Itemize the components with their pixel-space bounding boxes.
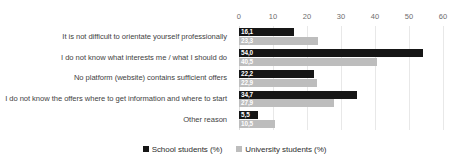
bar-university-students[interactable]: 22,9 bbox=[239, 79, 317, 87]
legend-swatch-icon bbox=[143, 146, 149, 152]
plot-area: 16,123,354,040,522,222,934,727,95,510,5 bbox=[239, 26, 443, 130]
bar-value-label: 16,1 bbox=[241, 28, 253, 36]
bar-university-students[interactable]: 23,3 bbox=[239, 37, 318, 45]
bar-university-students[interactable]: 10,5 bbox=[239, 120, 275, 128]
x-axis-tick: 10 bbox=[269, 11, 278, 22]
bar-group: 34,727,9 bbox=[239, 88, 443, 109]
bar-university-students[interactable]: 40,5 bbox=[239, 58, 377, 66]
chart-legend: School students (%)University students (… bbox=[0, 142, 469, 156]
x-axis-tick: 20 bbox=[303, 11, 312, 22]
legend-swatch-icon bbox=[236, 146, 242, 152]
bar-school-students[interactable]: 16,1 bbox=[239, 28, 294, 36]
x-axis-tick: 30 bbox=[337, 11, 346, 22]
bar-group: 16,123,3 bbox=[239, 26, 443, 47]
legend-label: School students (%) bbox=[152, 145, 223, 154]
bar-school-students[interactable]: 5,5 bbox=[239, 111, 258, 119]
bar-value-label: 22,2 bbox=[241, 70, 253, 78]
bar-rows: 16,123,354,040,522,222,934,727,95,510,5 bbox=[239, 26, 443, 130]
bar-university-students[interactable]: 27,9 bbox=[239, 99, 334, 107]
category-label: I do not know the offers where to get in… bbox=[0, 88, 227, 109]
legend-label: University students (%) bbox=[245, 145, 326, 154]
bar-value-label: 23,3 bbox=[241, 37, 253, 45]
category-label: It is not difficult to orientate yoursel… bbox=[0, 26, 227, 47]
x-axis-tick: 50 bbox=[405, 11, 414, 22]
x-axis: 0102030405060 bbox=[239, 11, 443, 22]
category-label: No platform (website) contains sufficien… bbox=[0, 68, 227, 89]
bar-group: 22,222,9 bbox=[239, 68, 443, 89]
gridline bbox=[443, 26, 444, 130]
legend-item-school-students[interactable]: School students (%) bbox=[143, 145, 223, 154]
bar-value-label: 22,9 bbox=[241, 79, 253, 87]
bar-chart: 0102030405060 16,123,354,040,522,222,934… bbox=[0, 0, 469, 164]
bar-value-label: 10,5 bbox=[241, 120, 253, 128]
category-label: I do not know what interests me / what I… bbox=[0, 47, 227, 68]
bar-value-label: 54,0 bbox=[241, 49, 253, 57]
x-axis-tick: 40 bbox=[371, 11, 380, 22]
x-axis-tick: 0 bbox=[237, 11, 241, 22]
bar-value-label: 34,7 bbox=[241, 91, 253, 99]
bar-school-students[interactable]: 22,2 bbox=[239, 70, 314, 78]
x-axis-tick: 60 bbox=[439, 11, 448, 22]
legend-item-university-students[interactable]: University students (%) bbox=[236, 145, 326, 154]
bar-school-students[interactable]: 34,7 bbox=[239, 91, 357, 99]
bar-value-label: 40,5 bbox=[241, 58, 253, 66]
bar-school-students[interactable]: 54,0 bbox=[239, 49, 423, 57]
bar-value-label: 5,5 bbox=[241, 111, 250, 119]
bar-group: 5,510,5 bbox=[239, 109, 443, 130]
category-label: Other reason bbox=[0, 109, 227, 130]
bar-group: 54,040,5 bbox=[239, 47, 443, 68]
bar-value-label: 27,9 bbox=[241, 99, 253, 107]
category-labels: It is not difficult to orientate yoursel… bbox=[0, 26, 233, 130]
